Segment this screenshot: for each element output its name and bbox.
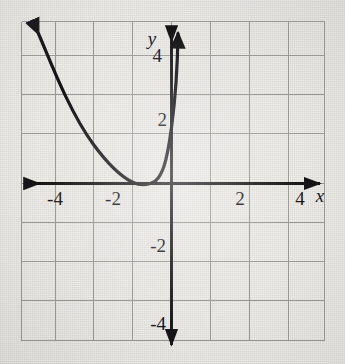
x-axis-label: x xyxy=(315,185,325,206)
y-tick-label-pos4: 4 xyxy=(153,45,163,66)
grid-lines xyxy=(22,22,325,341)
x-tick-label-pos4: 4 xyxy=(295,188,305,209)
x-tick-label-neg2: -2 xyxy=(105,188,121,209)
coordinate-plane-figure: y x -4 -2 2 4 4 2 -2 -4 xyxy=(0,0,345,364)
y-tick-label-neg4: -4 xyxy=(150,313,166,334)
y-tick-label-pos2: 2 xyxy=(158,109,168,130)
x-tick-label-neg4: -4 xyxy=(47,188,63,209)
x-tick-label-pos2: 2 xyxy=(235,188,245,209)
y-tick-label-neg2: -2 xyxy=(150,235,166,256)
